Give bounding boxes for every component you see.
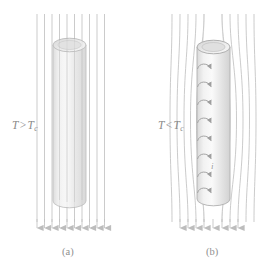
panel-b-temp-subscript: c [180, 124, 184, 133]
panel-b-cylinder [197, 40, 230, 206]
surface-current-label: i [211, 161, 214, 171]
panel-a-caption: (a) [62, 246, 74, 257]
cylinder-bore [58, 41, 81, 50]
cylinder-bore [202, 43, 225, 52]
meissner-effect-figure [0, 0, 271, 269]
cylinder-body [197, 47, 230, 206]
panel-a-temp-subscript: c [34, 124, 38, 133]
panel-a-temp-symbol: T [12, 119, 19, 131]
panel-b-caption: (b) [206, 246, 218, 257]
panel-b-field-arrows [180, 219, 238, 228]
panel-a-temp-operator: > [19, 119, 28, 131]
field-line [238, 14, 243, 222]
field-line [170, 14, 172, 222]
field-line [230, 14, 237, 222]
panel-b-temp-operator: < [165, 119, 174, 131]
field-line [184, 14, 188, 222]
panel-a-field-arrows [37, 219, 105, 228]
field-line [254, 14, 256, 222]
figure-root: T>Tc T<Tc i (a) (b) [0, 0, 271, 269]
panel-b-temperature-label: T<Tc [158, 119, 184, 133]
field-line [177, 14, 180, 222]
panel-a-temperature-label: T>Tc [12, 119, 38, 133]
field-line [246, 14, 250, 222]
field-line [191, 14, 197, 222]
panel-a-cylinder [53, 38, 86, 208]
panel-a-group [37, 14, 105, 228]
cylinder-body [53, 45, 86, 208]
panel-b-temp-symbol: T [158, 119, 165, 131]
